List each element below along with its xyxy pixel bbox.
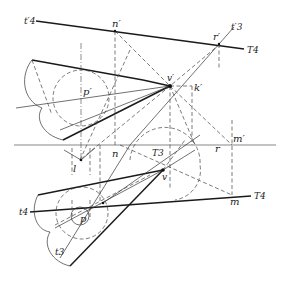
- dash-upper-4: [170, 86, 195, 145]
- base-curve-upper-1: [25, 60, 42, 108]
- dash-upper-3: [32, 60, 52, 115]
- label-t4-prime: t′4: [24, 16, 36, 26]
- label-m-prime: m′: [233, 133, 245, 144]
- trace-t4: [30, 196, 251, 212]
- label-r-prime: r′: [213, 31, 221, 42]
- dashed-arc-v: [130, 127, 200, 200]
- projection-diagram: t′4 n′ r′ t′3 T4 v′ k′ p′ m′ l n T3 r v …: [0, 0, 287, 282]
- label-T3: T3: [152, 148, 164, 158]
- label-t3-prime: t′3: [231, 22, 243, 32]
- label-p: p: [80, 213, 87, 224]
- label-T4-upper: T4: [247, 45, 259, 55]
- cone-top-edge-upper: [32, 60, 143, 80]
- dash-v-lower: [163, 140, 185, 170]
- label-n-prime: n′: [112, 18, 121, 29]
- dash-v-prime-m-prime: [170, 86, 232, 145]
- base-curve-lower-1: [34, 195, 50, 232]
- label-v-prime: v′: [167, 73, 174, 83]
- point-v-prime: [168, 84, 172, 88]
- label-m: m: [230, 196, 239, 207]
- label-v: v: [162, 172, 167, 182]
- dash-v-prime-n-prime: [115, 31, 170, 86]
- point-l: [80, 159, 83, 162]
- label-T4-lower: T4: [254, 191, 266, 201]
- label-k-prime: k′: [194, 82, 203, 93]
- line-l-1: [64, 150, 81, 160]
- cone-bottom-edge-upper: [63, 86, 170, 140]
- dash-v-prime-r-prime: [170, 44, 220, 86]
- label-t4: t4: [19, 207, 29, 217]
- point-n-prime: [114, 30, 116, 32]
- label-n: n: [112, 148, 118, 159]
- label-t3: t3: [55, 247, 65, 257]
- ray-v-prime-1: [143, 80, 170, 86]
- point-p-lower: [102, 202, 105, 205]
- label-l: l: [73, 163, 76, 174]
- ray-v-lower-1: [163, 150, 195, 170]
- point-r-prime: [218, 43, 220, 45]
- base-curve-upper-2: [39, 108, 63, 140]
- label-p-prime: p′: [83, 86, 92, 97]
